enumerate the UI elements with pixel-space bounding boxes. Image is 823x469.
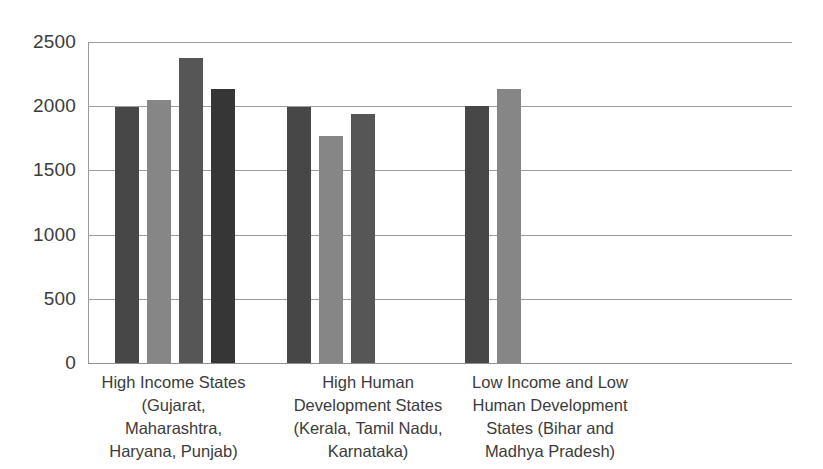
y-axis-tick-label-500: 500	[0, 288, 76, 310]
bar-chart: 25002000150010005000 High Income States …	[0, 0, 823, 469]
bar-group-2	[465, 42, 529, 363]
bar-group-0	[115, 42, 243, 363]
bar-g2-s1[interactable]	[497, 89, 521, 363]
y-axis-tick-label-1000: 1000	[0, 224, 76, 246]
y-axis-tick-label-2000: 2000	[0, 95, 76, 117]
gridline-0	[88, 363, 792, 364]
bar-g1-s0[interactable]	[287, 107, 311, 363]
bar-g1-s1[interactable]	[319, 136, 343, 363]
bar-g0-s2[interactable]	[179, 58, 203, 363]
y-axis-tick-label-1500: 1500	[0, 159, 76, 181]
bar-g2-s0[interactable]	[465, 106, 489, 363]
plot-area	[88, 42, 792, 363]
bar-g0-s1[interactable]	[147, 100, 171, 363]
x-axis-label-high-human-development-states: High Human Development States (Kerala, T…	[268, 371, 468, 463]
x-axis-label-high-income-states: High Income States (Gujarat, Maharashtra…	[66, 371, 281, 463]
y-axis-tick-label-2500: 2500	[0, 31, 76, 53]
bar-group-1	[287, 42, 383, 363]
x-axis-category-labels: High Income States (Gujarat, Maharashtra…	[0, 371, 823, 469]
bar-g0-s0[interactable]	[115, 107, 139, 363]
bar-g0-s3[interactable]	[211, 89, 235, 363]
x-axis-label-low-income-low-human-development-states: Low Income and Low Human Development Sta…	[455, 371, 645, 463]
bar-g1-s2[interactable]	[351, 114, 375, 363]
